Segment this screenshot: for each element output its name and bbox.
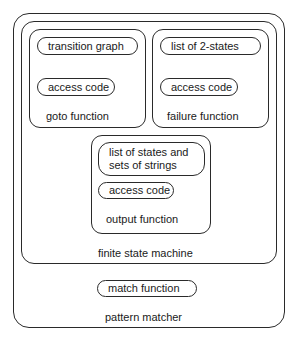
pattern-matcher-label: pattern matcher bbox=[105, 311, 182, 324]
list-of-2-states-label: list of 2-states bbox=[171, 40, 239, 53]
states-and-strings-pill: list of states and sets of strings bbox=[98, 142, 205, 176]
failure-access-code-label: access code bbox=[171, 81, 232, 94]
goto-function-label: goto function bbox=[46, 110, 109, 123]
goto-access-code-pill: access code bbox=[37, 78, 115, 96]
states-and-strings-line1: list of states and bbox=[109, 146, 189, 159]
failure-function-label: failure function bbox=[167, 110, 239, 123]
failure-access-code-pill: access code bbox=[160, 78, 238, 96]
transition-graph-label: transition graph bbox=[48, 40, 124, 53]
match-function-pill: match function bbox=[97, 280, 197, 297]
output-access-code-label: access code bbox=[109, 184, 170, 197]
transition-graph-pill: transition graph bbox=[37, 37, 138, 55]
output-function-label: output function bbox=[106, 213, 178, 226]
goto-access-code-label: access code bbox=[48, 81, 109, 94]
list-of-2-states-pill: list of 2-states bbox=[160, 37, 261, 55]
match-function-label: match function bbox=[108, 282, 180, 295]
states-and-strings-line2: sets of strings bbox=[109, 159, 177, 172]
finite-state-machine-label: finite state machine bbox=[98, 247, 193, 260]
output-access-code-pill: access code bbox=[98, 182, 174, 199]
